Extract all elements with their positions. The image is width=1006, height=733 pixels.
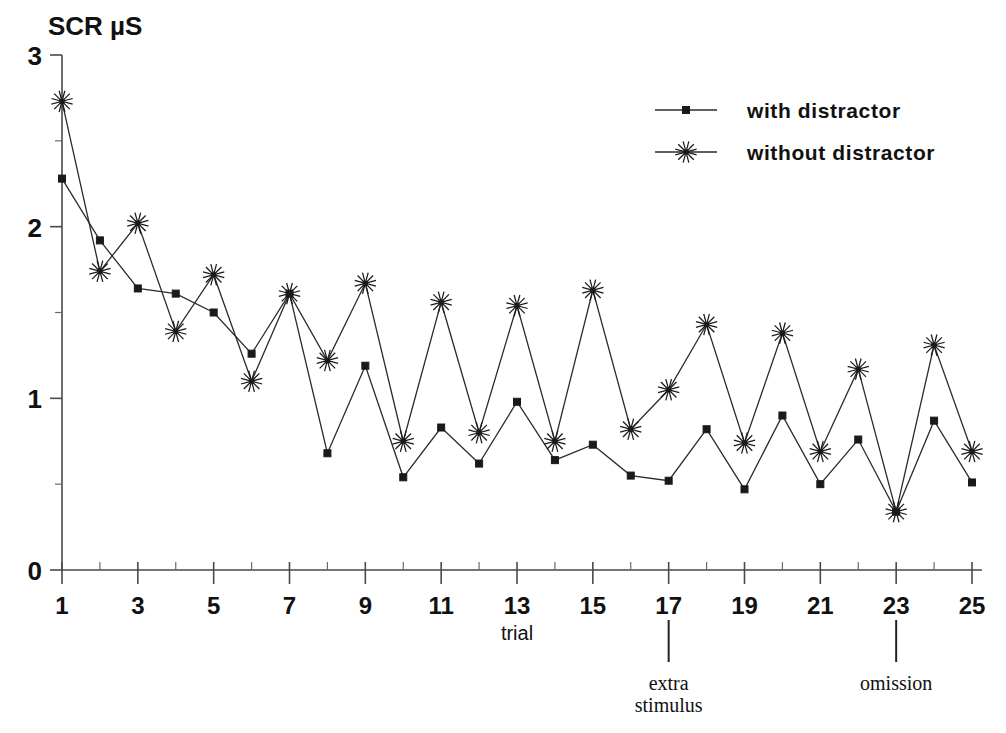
data-point-s0-t13 bbox=[514, 398, 521, 405]
data-point-s0-t12 bbox=[476, 460, 483, 467]
data-point-s1-t24 bbox=[923, 334, 944, 355]
data-point-s1-t7 bbox=[279, 283, 300, 304]
data-point-s0-t20 bbox=[779, 412, 786, 419]
data-point-s1-t13 bbox=[506, 295, 527, 316]
data-point-s1-t19 bbox=[734, 432, 755, 453]
data-point-s1-t5 bbox=[203, 264, 224, 285]
chart-figure: 0123135791113151719212325SCR µStrialextr… bbox=[0, 0, 1006, 733]
x-tick-label-25: 25 bbox=[959, 592, 986, 619]
data-point-s0-t17 bbox=[665, 477, 672, 484]
data-point-s0-t6 bbox=[248, 350, 255, 357]
data-point-s1-t6 bbox=[241, 371, 262, 392]
data-point-s0-t15 bbox=[589, 441, 596, 448]
data-point-s1-t18 bbox=[696, 314, 717, 335]
data-point-s0-t3 bbox=[134, 285, 141, 292]
x-tick-label-13: 13 bbox=[504, 592, 531, 619]
y-tick-label-2: 2 bbox=[28, 213, 42, 243]
annotation-line1-0: extra bbox=[649, 672, 689, 694]
data-point-s1-t14 bbox=[544, 431, 565, 452]
legend-marker-square bbox=[683, 107, 690, 114]
data-point-s1-t22 bbox=[848, 359, 869, 380]
data-point-s0-t16 bbox=[627, 472, 634, 479]
y-tick-label-0: 0 bbox=[28, 556, 42, 586]
data-point-s0-t18 bbox=[703, 426, 710, 433]
data-point-s1-t3 bbox=[127, 213, 148, 234]
data-point-s0-t19 bbox=[741, 486, 748, 493]
data-point-s0-t5 bbox=[210, 309, 217, 316]
scr-line-chart: 0123135791113151719212325SCR µStrialextr… bbox=[0, 0, 1006, 733]
data-point-s0-t2 bbox=[96, 237, 103, 244]
data-point-s1-t23 bbox=[886, 501, 907, 522]
data-point-s1-t21 bbox=[810, 441, 831, 462]
series-line-0 bbox=[62, 179, 972, 512]
x-tick-label-21: 21 bbox=[807, 592, 834, 619]
data-point-s1-t10 bbox=[393, 431, 414, 452]
x-tick-label-17: 17 bbox=[655, 592, 682, 619]
y-tick-label-1: 1 bbox=[28, 384, 42, 414]
data-point-s0-t1 bbox=[59, 175, 66, 182]
data-point-s0-t22 bbox=[855, 436, 862, 443]
x-tick-label-1: 1 bbox=[55, 592, 68, 619]
data-point-s1-t11 bbox=[431, 292, 452, 313]
x-tick-label-3: 3 bbox=[131, 592, 144, 619]
data-point-s1-t9 bbox=[355, 273, 376, 294]
data-point-s1-t16 bbox=[620, 419, 641, 440]
legend-label-text-0: with distractor bbox=[746, 99, 901, 122]
data-point-s0-t8 bbox=[324, 450, 331, 457]
data-point-s0-t25 bbox=[969, 479, 976, 486]
data-point-s0-t21 bbox=[817, 481, 824, 488]
data-point-s1-t20 bbox=[772, 322, 793, 343]
data-point-s1-t12 bbox=[468, 422, 489, 443]
x-tick-label-7: 7 bbox=[283, 592, 296, 619]
x-tick-label-5: 5 bbox=[207, 592, 220, 619]
x-tick-label-11: 11 bbox=[428, 592, 453, 619]
annotation-line1-1: omission bbox=[860, 672, 932, 694]
data-point-s1-t15 bbox=[582, 280, 603, 301]
x-tick-label-9: 9 bbox=[359, 592, 372, 619]
x-tick-label-19: 19 bbox=[731, 592, 758, 619]
data-point-s0-t14 bbox=[551, 457, 558, 464]
data-point-s1-t2 bbox=[89, 261, 110, 282]
data-point-s0-t11 bbox=[438, 424, 445, 431]
y-axis-title: SCR µS bbox=[48, 11, 142, 41]
x-tick-label-23: 23 bbox=[883, 592, 910, 619]
data-point-s1-t8 bbox=[317, 350, 338, 371]
data-point-s0-t4 bbox=[172, 290, 179, 297]
data-point-s1-t4 bbox=[165, 321, 186, 342]
y-tick-label-3: 3 bbox=[28, 41, 42, 71]
data-point-s1-t25 bbox=[961, 441, 982, 462]
data-point-s0-t24 bbox=[931, 417, 938, 424]
x-axis-title: trial bbox=[501, 622, 533, 644]
data-point-s0-t10 bbox=[400, 474, 407, 481]
axis-lines bbox=[62, 55, 982, 570]
annotation-line2-0: stimulus bbox=[635, 694, 703, 716]
data-point-s0-t9 bbox=[362, 362, 369, 369]
legend-label-text-1: without distractor bbox=[746, 141, 935, 164]
data-point-s1-t17 bbox=[658, 379, 679, 400]
x-tick-label-15: 15 bbox=[579, 592, 606, 619]
